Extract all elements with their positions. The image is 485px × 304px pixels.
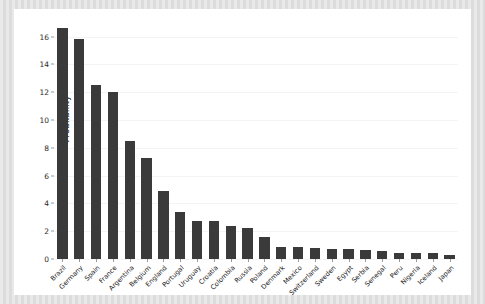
bar[interactable] — [377, 251, 387, 259]
bar[interactable] — [141, 158, 151, 259]
bar[interactable] — [108, 92, 118, 259]
bar[interactable] — [74, 39, 84, 259]
plot-panel: Probability 0246810121416 BrazilGermanyS… — [14, 9, 471, 295]
y-tick-label: 10 — [39, 116, 49, 125]
x-tick-mark — [298, 259, 299, 262]
y-tick-label: 4 — [44, 199, 49, 208]
y-tick-label: 6 — [44, 171, 49, 180]
x-tick-mark — [147, 259, 148, 262]
x-tick-mark — [231, 259, 232, 262]
x-tick-mark — [113, 259, 114, 262]
bar[interactable] — [175, 212, 185, 259]
y-tick-label: 16 — [39, 32, 49, 41]
x-tick-mark — [365, 259, 366, 262]
x-tick-mark — [416, 259, 417, 262]
x-tick-mark — [130, 259, 131, 262]
y-tick-label: 8 — [44, 143, 49, 152]
x-tick-mark — [332, 259, 333, 262]
y-tick-label: 2 — [44, 227, 49, 236]
bar[interactable] — [360, 250, 370, 259]
x-tick-mark — [281, 259, 282, 262]
y-tick-label: 0 — [44, 255, 49, 264]
bar[interactable] — [310, 248, 320, 259]
bar[interactable] — [259, 237, 269, 259]
x-tick-mark — [62, 259, 63, 262]
x-tick-mark — [197, 259, 198, 262]
bar[interactable] — [125, 141, 135, 259]
bar[interactable] — [57, 28, 67, 259]
bar[interactable] — [242, 228, 252, 259]
x-tick-mark — [433, 259, 434, 262]
bar[interactable] — [293, 247, 303, 259]
x-tick-mark — [163, 259, 164, 262]
x-tick-mark — [399, 259, 400, 262]
x-tick-mark — [264, 259, 265, 262]
x-tick-label: Japan — [437, 264, 456, 283]
x-tick-mark — [382, 259, 383, 262]
bar[interactable] — [192, 221, 202, 259]
gridline — [54, 259, 458, 260]
bar[interactable] — [327, 249, 337, 259]
x-tick-mark — [96, 259, 97, 262]
bar[interactable] — [158, 191, 168, 259]
x-tick-mark — [180, 259, 181, 262]
x-tick-mark — [214, 259, 215, 262]
x-tick-mark — [79, 259, 80, 262]
bar[interactable] — [91, 85, 101, 259]
x-tick-mark — [248, 259, 249, 262]
bar[interactable] — [343, 249, 353, 259]
bars-layer — [54, 20, 458, 259]
y-tick-label: 14 — [39, 60, 49, 69]
bar[interactable] — [276, 247, 286, 260]
plot-axes: 0246810121416 BrazilGermanySpainFranceAr… — [54, 20, 458, 259]
bar[interactable] — [226, 226, 236, 259]
x-tick-mark — [450, 259, 451, 262]
figure-frame: Probability 0246810121416 BrazilGermanyS… — [0, 0, 485, 304]
x-tick-mark — [349, 259, 350, 262]
x-tick-mark — [315, 259, 316, 262]
bar[interactable] — [209, 221, 219, 259]
y-tick-label: 12 — [39, 88, 49, 97]
